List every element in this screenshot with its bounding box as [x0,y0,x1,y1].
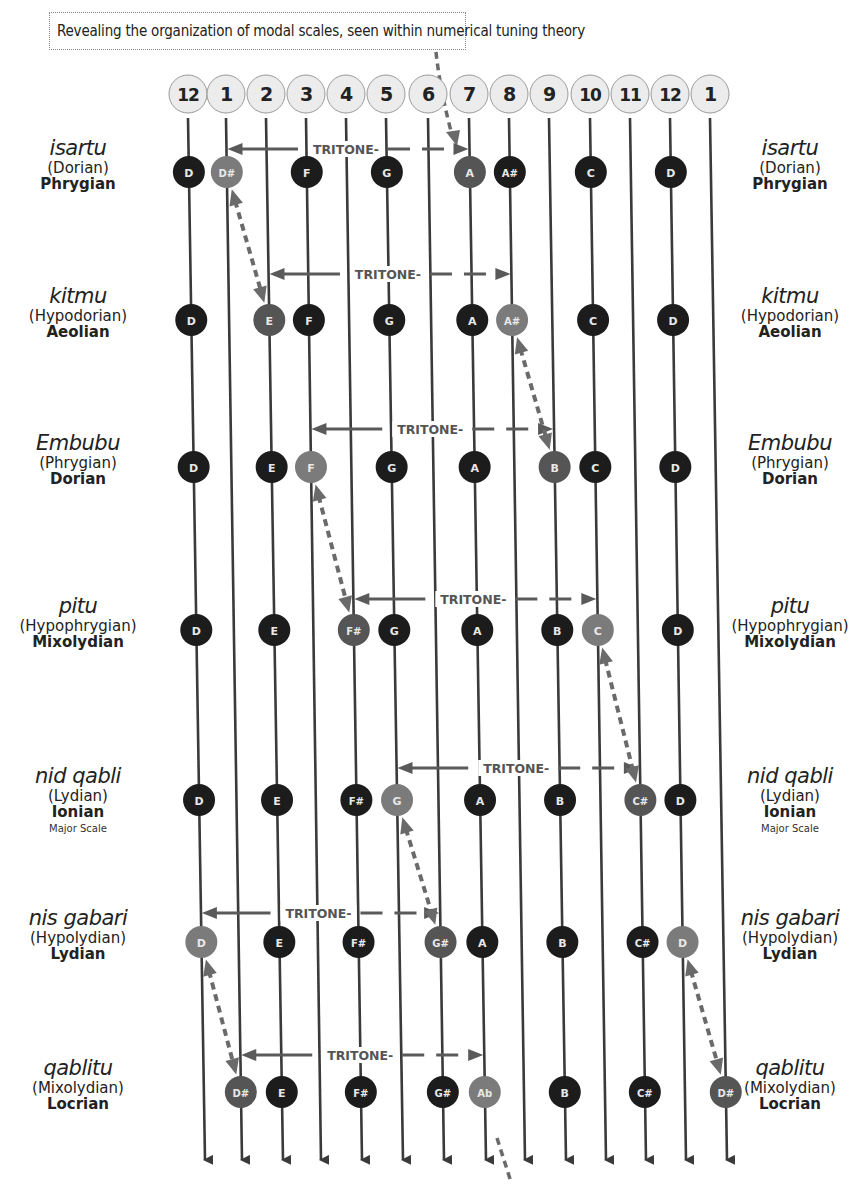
svg-text:G: G [390,625,399,638]
svg-text:F: F [307,462,315,475]
note-d-nis-gabari: D [185,926,217,958]
note-e-Embubu: E [256,451,288,483]
note-g-Embubu: G [376,451,408,483]
mode-link-arrow-1 [515,337,552,449]
mode-name: pitu [710,596,867,617]
mode-paren: (Lydian) [0,789,158,804]
note-b-nis-gabari: B [546,926,578,958]
svg-text:C: C [591,462,599,475]
note-g-kitmu: G [373,304,405,336]
mode-link-arrow-2 [313,484,352,612]
mode-extra: Major Scale [0,824,158,834]
svg-text:E: E [278,1087,286,1100]
note-g-sharp-qablitu: G# [427,1076,459,1108]
mode-name: Embubu [710,433,867,454]
note-a-sharp-kitmu: A# [496,304,528,336]
note-f-kitmu: F [293,304,325,336]
mode-greek: Mixolydian [0,635,158,650]
note-a-kitmu: A [456,304,488,336]
arrow-left-icon [398,762,413,774]
svg-text:G#: G# [432,938,449,949]
arrow-left-icon [354,593,369,605]
svg-text:3: 3 [300,83,312,105]
tritone-arrow-4: TRITONE- [398,760,639,776]
note-f-sharp-nid-qabli: F# [340,784,372,816]
svg-text:5: 5 [380,83,392,105]
arrow-right-icon [468,1049,483,1061]
mode-name: nid qabli [710,766,867,787]
svg-text:1: 1 [220,83,232,105]
mode-greek: Aeolian [710,325,867,340]
tritone-arrow-0: TRITONE- [227,141,468,157]
mode-label-right-Embubu: Embubu(Phrygian)Dorian [710,433,867,487]
mode-name: isartu [710,138,867,159]
svg-text:D: D [666,167,675,180]
column-header-12: 12 [651,75,689,113]
column-header-3: 3 [287,75,325,113]
note-c-pitu: C [582,614,614,646]
mode-extra: Major Scale [710,824,867,834]
column-header-5: 5 [367,75,405,113]
mode-name: isartu [0,138,158,159]
svg-text:C: C [587,167,595,180]
column-header-2: 2 [247,75,285,113]
svg-text:E: E [266,315,274,328]
note-d-isartu: D [655,156,687,188]
svg-text:G: G [393,795,402,808]
svg-text:D: D [673,625,682,638]
svg-text:C#: C# [633,796,649,807]
mode-greek: Locrian [710,1097,867,1112]
mode-label-right-nid-qabli: nid qabli(Lydian)IonianMajor Scale [710,766,867,834]
note-f-sharp-qablitu: F# [345,1076,377,1108]
svg-text:1: 1 [704,83,716,105]
svg-text:D: D [189,462,198,475]
mode-greek: Dorian [710,472,867,487]
svg-text:7: 7 [463,83,475,105]
mode-greek: Lydian [710,947,867,962]
svg-text:C#: C# [635,938,651,949]
note-nodes: DD#FGAA#CDDEFGAA#CDDEFGABCDDEF#GABCDDEF#… [173,156,742,1108]
mode-label-left-nid-qabli: nid qabli(Lydian)IonianMajor Scale [0,766,158,834]
arrow-up-icon [400,817,413,834]
arrow-up-icon [685,959,698,976]
note-a-pitu: A [461,614,493,646]
mode-label-left-Embubu: Embubu(Phrygian)Dorian [0,433,158,487]
tritone-label: TRITONE- [397,422,463,437]
svg-text:F#: F# [346,626,361,637]
note-a-sharp-isartu: A# [494,156,526,188]
arrow-down-icon [253,285,266,302]
svg-text:D: D [669,315,678,328]
svg-text:E: E [276,937,284,950]
arrow-right-icon [454,143,469,155]
svg-text:C: C [594,625,602,638]
mode-paren: (Mixolydian) [0,1081,158,1096]
mode-link-arrow-0 [229,189,266,302]
svg-text:A: A [476,795,485,808]
mode-label-right-isartu: isartu(Dorian)Phrygian [710,138,867,192]
note-d-kitmu: D [175,304,207,336]
note-e-pitu: E [258,614,290,646]
svg-text:F#: F# [349,796,364,807]
arrow-left-icon [311,423,326,435]
svg-text:G#: G# [435,1088,452,1099]
svg-text:B: B [550,462,558,475]
mode-name: qablitu [0,1058,158,1079]
note-b-nid-qabli: B [544,784,576,816]
column-header-8: 8 [490,75,528,113]
note-g-nid-qabli: G [381,784,413,816]
note-d-Embubu: D [659,451,691,483]
note-g-pitu: G [378,614,410,646]
note-d-nis-gabari: D [667,926,699,958]
note-d-nid-qabli: D [664,784,696,816]
mode-paren: (Hypodorian) [710,309,867,324]
mode-paren: (Hypophrygian) [710,619,867,634]
mode-label-left-qablitu: qablitu(Mixolydian)Locrian [0,1058,158,1112]
column-line-11 [630,118,646,1160]
mode-greek: Aeolian [0,325,158,340]
tritone-arrow-2: TRITONE- [311,421,553,437]
svg-text:D: D [676,795,685,808]
svg-text:D: D [192,625,201,638]
note-d-pitu: D [662,614,694,646]
svg-text:A: A [473,625,482,638]
note-ab-qablitu: Ab [469,1076,501,1108]
